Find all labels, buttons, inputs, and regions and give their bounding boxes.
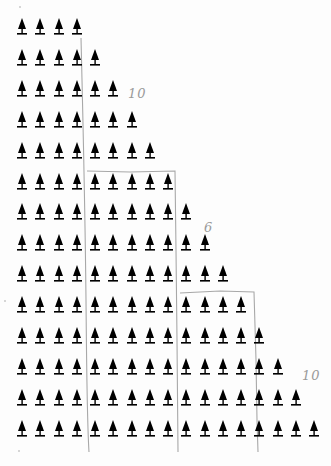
tree-icon: [34, 203, 46, 221]
tree-icon: [53, 111, 65, 129]
tree-icon: [180, 327, 192, 345]
tree-icon: [180, 296, 192, 314]
tree-icon: [126, 358, 138, 376]
tree-icon: [89, 111, 101, 129]
tree-icon: [16, 80, 28, 98]
tree-icon: [16, 111, 28, 129]
tree-icon: [107, 327, 119, 345]
tree-icon: [290, 389, 302, 407]
annotation-label: 6: [204, 220, 213, 235]
scan-speck: [4, 300, 6, 302]
tree-icon: [144, 420, 156, 438]
tree-icon: [162, 296, 174, 314]
tree-icon: [53, 80, 65, 98]
tree-icon: [71, 111, 83, 129]
tree-icon: [16, 265, 28, 283]
tree-icon: [107, 203, 119, 221]
tree-icon: [199, 420, 211, 438]
tree-icon: [71, 327, 83, 345]
tree-icon: [107, 265, 119, 283]
tree-icon: [34, 389, 46, 407]
tree-icon: [89, 265, 101, 283]
tree-icon: [199, 265, 211, 283]
tree-icon: [53, 296, 65, 314]
tree-icon: [235, 389, 247, 407]
tree-icon: [107, 296, 119, 314]
tree-icon: [34, 111, 46, 129]
tree-icon: [34, 80, 46, 98]
tree-icon: [34, 18, 46, 36]
tree-icon: [253, 358, 265, 376]
tree-icon: [235, 327, 247, 345]
tree-icon: [144, 296, 156, 314]
tree-icon: [199, 327, 211, 345]
tree-icon: [34, 265, 46, 283]
tree-icon: [199, 358, 211, 376]
tree-icon: [53, 234, 65, 252]
tree-icon: [217, 296, 229, 314]
tree-icon: [107, 358, 119, 376]
tree-icon: [16, 18, 28, 36]
tree-icon: [34, 49, 46, 67]
tree-icon: [89, 80, 101, 98]
tree-icon: [16, 234, 28, 252]
tree-icon: [16, 49, 28, 67]
tree-icon: [107, 234, 119, 252]
tree-icon: [253, 389, 265, 407]
tree-icon: [180, 420, 192, 438]
tree-icon: [16, 173, 28, 191]
tree-icon: [144, 173, 156, 191]
tree-icon: [71, 18, 83, 36]
tree-icon: [126, 296, 138, 314]
tree-icon: [53, 49, 65, 67]
tree-icon: [180, 203, 192, 221]
tree-icon: [34, 296, 46, 314]
worksheet: 10 6 10: [0, 0, 331, 466]
tree-icon: [126, 420, 138, 438]
tree-icon: [126, 142, 138, 160]
tree-icon: [253, 420, 265, 438]
tree-icon: [16, 327, 28, 345]
tree-icon: [89, 173, 101, 191]
tree-icon: [162, 234, 174, 252]
tree-icon: [162, 420, 174, 438]
tree-icon: [53, 327, 65, 345]
tree-icon: [217, 265, 229, 283]
tree-icon: [16, 420, 28, 438]
tree-icon: [162, 265, 174, 283]
tree-icon: [217, 358, 229, 376]
scan-speck: [19, 6, 21, 8]
tree-icon: [126, 111, 138, 129]
tree-icon: [162, 173, 174, 191]
tree-icon: [107, 80, 119, 98]
tree-icon: [199, 234, 211, 252]
tree-icon: [144, 358, 156, 376]
tree-icon: [71, 142, 83, 160]
scan-speck: [18, 450, 20, 452]
tree-icon: [180, 358, 192, 376]
tree-icon: [53, 358, 65, 376]
tree-icon: [89, 327, 101, 345]
tree-icon: [180, 389, 192, 407]
tree-icon: [144, 142, 156, 160]
tree-icon: [71, 49, 83, 67]
tree-icon: [89, 296, 101, 314]
tree-icon: [107, 111, 119, 129]
tree-icon: [89, 234, 101, 252]
tree-icon: [53, 142, 65, 160]
tree-icon: [71, 265, 83, 283]
tree-icon: [199, 296, 211, 314]
tree-icon: [126, 265, 138, 283]
tree-icon: [126, 327, 138, 345]
tree-icon: [16, 389, 28, 407]
tree-icon: [126, 389, 138, 407]
tree-icon: [71, 420, 83, 438]
tree-icon: [107, 142, 119, 160]
tree-icon: [235, 420, 247, 438]
tree-icon: [144, 265, 156, 283]
tree-icon: [16, 358, 28, 376]
tree-icon: [180, 234, 192, 252]
tree-icon: [126, 203, 138, 221]
tree-icon: [272, 389, 284, 407]
tree-icon: [71, 358, 83, 376]
